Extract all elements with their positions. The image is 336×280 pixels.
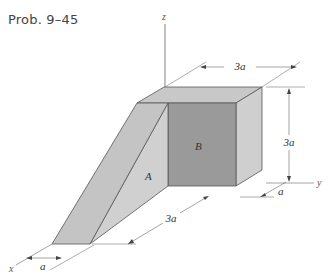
x-axis-label: x bbox=[8, 263, 14, 274]
z-axis-label: z bbox=[161, 11, 166, 22]
dim-height: 3a bbox=[283, 136, 296, 148]
y-axis-label: y bbox=[316, 177, 322, 188]
region-a-label: A bbox=[144, 170, 152, 182]
region-b-face bbox=[168, 103, 236, 186]
dim-left-depth: a bbox=[40, 260, 46, 272]
dim-base-length: 3a bbox=[165, 212, 178, 224]
right-face bbox=[236, 87, 262, 186]
dim-right-depth: a bbox=[278, 185, 284, 197]
x-axis bbox=[16, 244, 52, 265]
region-b-label: B bbox=[195, 140, 202, 152]
solid-diagram: z B A 3a 3a y a 3a x a bbox=[0, 0, 336, 280]
dim-top-width: 3a bbox=[234, 60, 247, 72]
